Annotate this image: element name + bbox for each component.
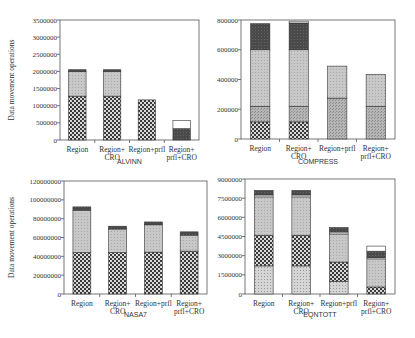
chart-panel-eqntott: 0150000030000004500000600000075000009000…: [218, 176, 396, 320]
bar-segment-checker: [138, 100, 155, 140]
chart-panel-compress: 0200000400000600000800000RegionRegion+CR…: [217, 17, 395, 166]
y-tick-label: 2000000: [33, 68, 58, 76]
x-tick-label: Region: [249, 144, 271, 153]
bar-segment-medium: [328, 98, 347, 139]
bar-segment-checker: [289, 122, 308, 139]
bar-segment-dark: [251, 24, 270, 50]
y-tick-label: 2500000: [33, 51, 58, 59]
y-tick-label: 3000000: [218, 252, 243, 260]
y-tick-label: 80000000: [33, 215, 62, 223]
y-tick-label: 1500000: [33, 85, 58, 93]
x-tick-label: prfl+CRO: [361, 152, 392, 161]
bar-segment-light: [367, 259, 386, 287]
bar-segment-checker: [367, 287, 386, 294]
y-tick-label: 400000: [217, 76, 239, 84]
bar-segment-dark: [329, 228, 348, 232]
y-tick-label: 0: [54, 137, 58, 145]
bar-segment-lightdot: [329, 281, 348, 294]
y-tick-label: 60000000: [33, 234, 62, 242]
bar-segment-light: [73, 210, 91, 252]
bar-segment-lightdot: [254, 266, 273, 294]
chart-title: COMPRESS: [298, 158, 338, 165]
bar-segment-dark: [254, 191, 273, 195]
bar-segment-checker: [254, 235, 273, 266]
x-tick-label: prfl+CRO: [361, 307, 392, 316]
bar-segment-medium: [289, 106, 308, 122]
bar-segment-checker: [329, 262, 348, 281]
chart-panel-alvinn: 0500000100000015000002000000250000030000…: [7, 17, 199, 166]
y-tick-label: 600000: [217, 46, 239, 54]
bar-segment-dark: [173, 129, 190, 140]
y-tick-label: 1500000: [218, 271, 243, 279]
x-tick-label: Region: [67, 145, 89, 154]
chart-title: EQNTOTT: [303, 311, 337, 319]
y-tick-label: 500000: [36, 119, 58, 127]
y-tick-label: 200000: [217, 106, 239, 114]
bar-segment-dark: [180, 232, 198, 235]
x-tick-label: Region: [253, 299, 275, 308]
y-tick-label: 1000000: [33, 102, 58, 110]
bar-segment-light: [289, 50, 308, 107]
y-tick-label: 4500000: [218, 233, 243, 241]
bar-segment-light: [254, 197, 273, 235]
bar-segment-checker: [251, 122, 270, 139]
bar-segment-light: [109, 229, 127, 253]
bar-segment-light: [328, 66, 347, 98]
chart-title: ALVINN: [117, 158, 142, 165]
bar-segment-dark: [69, 70, 86, 72]
y-tick-label: 20000000: [33, 272, 62, 280]
y-tick-label: 0: [235, 136, 239, 144]
y-tick-label: 100000000: [30, 196, 62, 204]
bar-segment-medium: [251, 106, 270, 122]
bar-segment-dark: [367, 251, 386, 257]
bar-segment-checker: [180, 251, 198, 294]
x-tick-label: prfl+CRO: [174, 307, 205, 316]
bar-segment-light: [329, 234, 348, 262]
y-tick-label: 3000000: [33, 34, 58, 42]
y-tick-label: 800000: [217, 17, 239, 25]
chart-panel-nasa7: 0200000004000000060000000800000001000000…: [7, 178, 207, 319]
bar-segment-medium: [366, 106, 385, 139]
bar-segment-white: [289, 21, 308, 23]
x-tick-label: Region+prfl: [320, 299, 357, 308]
bar-segment-checker: [144, 252, 162, 294]
bar-segment-checker: [69, 96, 86, 140]
bar-segment-light: [103, 71, 120, 96]
bar-segment-checker: [103, 96, 120, 140]
y-tick-label: 40000000: [33, 253, 62, 261]
bar-segment-checker: [109, 253, 127, 294]
y-tick-label: 9000000: [218, 176, 243, 184]
x-tick-label: Region: [71, 299, 93, 308]
bar-segment-white: [367, 246, 386, 251]
y-tick-label: 0: [239, 291, 243, 299]
bar-segment-dark: [292, 191, 311, 195]
y-axis-label: Data movement operations: [7, 197, 16, 278]
bar-segment-dark: [144, 222, 162, 225]
chart-title: NASA7: [124, 311, 147, 318]
bar-segment-dark: [103, 70, 120, 72]
x-tick-label: Region+prfl: [129, 145, 166, 154]
bar-segment-light: [366, 74, 385, 106]
y-tick-label: 6000000: [218, 214, 243, 222]
bar-segment-light: [144, 225, 162, 252]
bar-segment-checker: [292, 235, 311, 266]
y-tick-label: 120000000: [30, 178, 62, 186]
bar-segment-dark: [73, 207, 91, 210]
y-tick-label: 0: [58, 291, 62, 299]
bar-segment-dark: [109, 226, 127, 229]
y-tick-label: 3500000: [33, 17, 58, 25]
bar-segment-checker: [73, 253, 91, 294]
bar-segment-white: [173, 120, 190, 128]
bar-segment-dark: [289, 23, 308, 50]
bar-segment-light: [251, 50, 270, 107]
bar-segment-light: [292, 197, 311, 235]
chart-figure: 0500000100000015000002000000250000030000…: [0, 0, 415, 338]
y-axis-label: Data movement operations: [7, 40, 16, 121]
y-tick-label: 7500000: [218, 195, 243, 203]
x-tick-label: Region+prfl: [319, 144, 356, 153]
x-tick-label: prfl+CRO: [166, 153, 197, 162]
bar-segment-light: [180, 235, 198, 251]
bar-segment-light: [69, 71, 86, 96]
bar-segment-lightdot: [292, 266, 311, 294]
x-tick-label: Region+prfl: [135, 299, 172, 308]
